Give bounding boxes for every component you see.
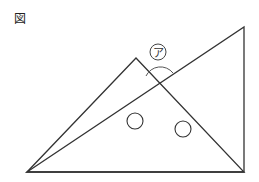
angle-arc xyxy=(146,67,173,76)
angle-mark-right xyxy=(175,121,191,137)
right-triangle xyxy=(27,27,244,172)
angle-label: ア xyxy=(153,47,164,60)
left-triangle xyxy=(27,58,244,172)
geometry-diagram: ア xyxy=(0,0,259,182)
angle-mark-left xyxy=(127,113,143,129)
